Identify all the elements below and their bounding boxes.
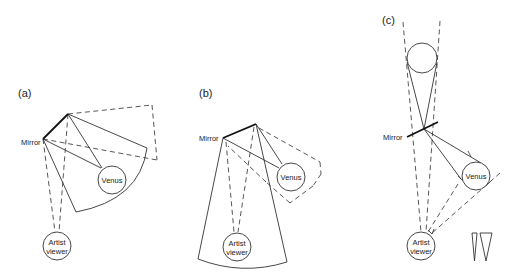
light-path-solid [223, 138, 279, 168]
mirror-label: Mirror [199, 134, 219, 143]
light-path-dashed [59, 114, 68, 232]
triangle-icon [480, 233, 492, 261]
mirror-label: Mirror [383, 133, 403, 142]
light-path-dashed [228, 146, 266, 182]
panel-a: VenusArtistviewer(a)Mirror [18, 87, 157, 260]
triangle-icon [472, 233, 477, 261]
mirror-line [223, 124, 256, 138]
panel-c: VenusArtistviewer(c)Mirror [382, 14, 500, 261]
light-path-solid [256, 124, 287, 262]
reflection-circle [407, 43, 437, 73]
panel-label: (c) [382, 14, 395, 26]
light-path-solid [424, 129, 481, 163]
light-path-dashed [152, 105, 157, 160]
venus-label: Venus [466, 172, 487, 181]
panel-label: (b) [199, 87, 212, 99]
light-path-solid [43, 139, 101, 168]
light-path-dashed [313, 174, 321, 186]
light-path-solid [198, 138, 223, 259]
mirror-venus-diagram: VenusArtistviewer(a)MirrorVenusArtistvie… [0, 0, 517, 275]
light-path-dashed [259, 128, 320, 162]
panel-b: VenusArtistviewer(b)Mirror [198, 87, 321, 268]
light-path-solid [68, 114, 147, 148]
mirror-line [43, 114, 68, 139]
light-path-dashed [43, 139, 157, 160]
light-path-dashed [226, 142, 234, 232]
field-of-view-arc [198, 259, 287, 268]
light-path-dashed [320, 162, 321, 174]
light-path-solid [424, 129, 461, 179]
viewer-label: viewer [46, 247, 68, 256]
venus-label: Venus [281, 173, 302, 182]
light-path-dashed [68, 105, 152, 114]
viewer-label: viewer [226, 248, 248, 257]
viewer-label: viewer [410, 247, 432, 256]
figure-stage: VenusArtistviewer(a)MirrorVenusArtistvie… [0, 0, 517, 275]
venus-label: Venus [102, 176, 123, 185]
light-path-dashed [238, 127, 254, 232]
mirror-label: Mirror [21, 138, 41, 147]
panel-label: (a) [18, 87, 31, 99]
light-path-dashed [428, 184, 458, 232]
